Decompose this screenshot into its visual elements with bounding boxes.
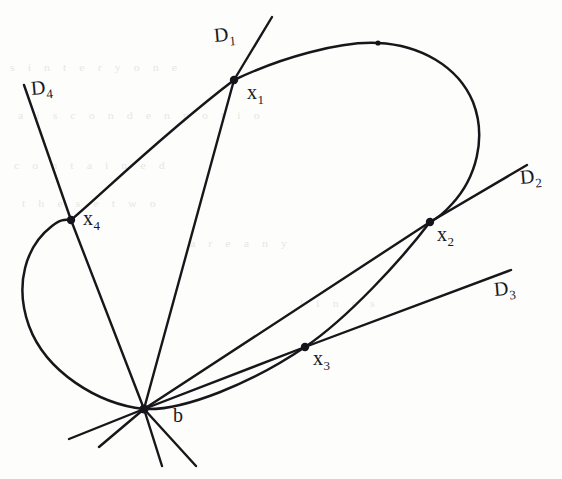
line-D4 bbox=[24, 85, 196, 466]
label-D2-base: D bbox=[519, 165, 535, 188]
label-x1: x1 bbox=[247, 82, 264, 106]
diagram-svg bbox=[0, 0, 562, 479]
label-b: b bbox=[173, 405, 183, 425]
label-x2-sub: 2 bbox=[447, 234, 454, 249]
line-D2 bbox=[69, 165, 527, 439]
label-D4-base: D bbox=[30, 76, 46, 99]
label-D1-sub: 1 bbox=[228, 33, 236, 49]
label-x3-base: x bbox=[313, 347, 323, 369]
point-x2-marker bbox=[426, 218, 434, 226]
label-D1: D1 bbox=[213, 23, 236, 49]
label-x2: x2 bbox=[437, 224, 454, 248]
label-x1-base: x bbox=[247, 81, 257, 103]
label-x3: x3 bbox=[313, 348, 330, 372]
figure-canvas: s i n t e r y o n e a i s c o n d e n n … bbox=[0, 0, 562, 479]
point-x1-marker bbox=[230, 76, 238, 84]
label-x4-base: x bbox=[83, 207, 93, 229]
label-x1-sub: 1 bbox=[257, 92, 264, 107]
point-x3-marker bbox=[301, 343, 309, 351]
label-D3-base: D bbox=[493, 277, 509, 300]
label-D3-sub: 3 bbox=[508, 287, 516, 303]
point-b-marker bbox=[139, 404, 148, 413]
label-D3: D3 bbox=[493, 277, 516, 303]
label-D4: D4 bbox=[30, 76, 53, 102]
label-x4-sub: 4 bbox=[93, 218, 100, 233]
point-apex-marker bbox=[375, 40, 380, 45]
label-x2-base: x bbox=[437, 223, 447, 245]
label-D2-sub: 2 bbox=[534, 175, 542, 191]
line-D3 bbox=[99, 270, 511, 447]
label-D1-base: D bbox=[213, 23, 229, 46]
label-D2: D2 bbox=[519, 165, 542, 191]
label-x4: x4 bbox=[83, 208, 100, 232]
point-x4-marker bbox=[67, 216, 75, 224]
label-D4-sub: 4 bbox=[45, 86, 53, 102]
label-x3-sub: 3 bbox=[323, 358, 330, 373]
label-b-text: b bbox=[173, 404, 183, 426]
